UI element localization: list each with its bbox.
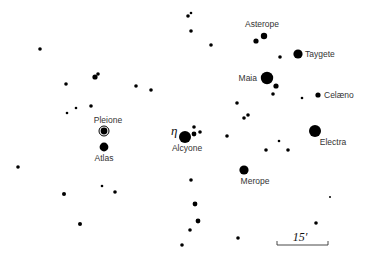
- star-label: Taygete: [305, 49, 335, 59]
- star: [134, 84, 138, 88]
- star-dot: [315, 92, 320, 97]
- star-dot: [239, 165, 248, 174]
- star-atlas: Atlas: [95, 143, 114, 163]
- star: [253, 38, 258, 43]
- star-dot: [179, 131, 191, 143]
- star-dot: [100, 143, 109, 152]
- star: [192, 125, 196, 129]
- star: [62, 192, 66, 196]
- star-label: Merope: [241, 176, 270, 186]
- star: [180, 243, 184, 247]
- star-celno: Celæno: [315, 90, 354, 100]
- star: [190, 12, 193, 15]
- scale-bar-label: 15′: [293, 230, 308, 244]
- star: [196, 219, 201, 224]
- star: [301, 97, 304, 100]
- star: [198, 130, 202, 134]
- star-taygete: Taygete: [293, 49, 335, 59]
- star: [75, 107, 78, 110]
- star: [38, 47, 42, 51]
- scale-bar: 15′: [277, 230, 328, 245]
- star: [314, 221, 318, 225]
- star-dot: [261, 33, 267, 39]
- star: [273, 83, 278, 88]
- star-label: Atlas: [95, 153, 114, 163]
- star-label: Asterope: [245, 19, 279, 29]
- star-electra: Electra: [309, 125, 346, 147]
- star: [186, 14, 190, 18]
- star: [189, 29, 193, 33]
- star: [264, 148, 268, 152]
- star-dot: [261, 72, 273, 84]
- star-pleione: Pleione: [94, 115, 123, 136]
- star: [96, 72, 100, 76]
- star: [101, 185, 104, 188]
- star-label: Maia: [239, 73, 258, 83]
- star: [225, 134, 229, 138]
- star: [189, 178, 193, 182]
- star-label: Celæno: [324, 90, 354, 100]
- named-stars: AsteropeTaygeteMaiaCelænoPleioneAlcyoneE…: [94, 19, 354, 186]
- star-merope: Merope: [239, 165, 269, 186]
- star: [64, 82, 68, 86]
- star: [246, 113, 250, 117]
- star: [236, 236, 240, 240]
- star-label: Alcyone: [172, 143, 203, 153]
- star: [271, 92, 275, 96]
- star: [286, 148, 290, 152]
- star-label: Electra: [320, 137, 347, 147]
- star: [149, 88, 153, 92]
- star: [209, 43, 213, 47]
- star: [66, 112, 69, 115]
- star-label: Pleione: [94, 115, 123, 125]
- star-dot: [293, 49, 302, 58]
- star-dot: [101, 128, 108, 135]
- star-maia: Maia: [239, 72, 274, 84]
- star: [16, 165, 20, 169]
- eta-label: η: [171, 123, 177, 138]
- star: [188, 228, 192, 232]
- star-dot: [309, 125, 321, 137]
- star-asterope: Asterope: [245, 19, 279, 39]
- star-chart: AsteropeTaygeteMaiaCelænoPleioneAlcyoneE…: [0, 0, 370, 264]
- star: [242, 116, 246, 120]
- star: [278, 55, 282, 59]
- star: [78, 222, 82, 226]
- star: [192, 132, 197, 137]
- star: [278, 140, 281, 143]
- star: [329, 196, 331, 198]
- star: [235, 101, 239, 105]
- star: [193, 202, 198, 207]
- star: [89, 104, 93, 108]
- star: [113, 190, 117, 194]
